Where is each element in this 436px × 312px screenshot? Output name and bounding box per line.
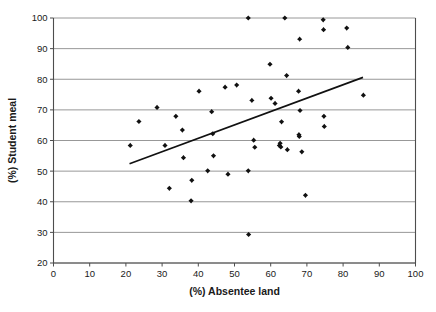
y-tick-label-40: 40 xyxy=(37,196,48,207)
data-point xyxy=(251,138,256,143)
data-point xyxy=(225,172,230,177)
y-tick-label-30: 30 xyxy=(37,227,48,238)
y-tick-label-20: 20 xyxy=(37,257,48,268)
x-axis-ticks-group: 0102030405060708090100 xyxy=(51,263,424,279)
data-point xyxy=(279,119,284,124)
gridlines-group xyxy=(54,18,416,263)
scatter-chart-figure: 2030405060708090100010203040506070809010… xyxy=(0,0,436,312)
x-tick-label-10: 10 xyxy=(84,268,95,279)
data-point xyxy=(268,96,273,101)
data-point xyxy=(173,114,178,119)
data-point xyxy=(246,15,251,20)
data-point xyxy=(285,147,290,152)
y-tick-label-70: 70 xyxy=(37,104,48,115)
x-tick-label-50: 50 xyxy=(229,268,240,279)
data-point xyxy=(246,168,251,173)
x-tick-label-90: 90 xyxy=(374,268,385,279)
data-point xyxy=(234,82,239,87)
data-point xyxy=(222,85,227,90)
trendline xyxy=(130,77,363,163)
data-point xyxy=(321,27,326,32)
x-tick-label-70: 70 xyxy=(302,268,313,279)
y-tick-label-60: 60 xyxy=(37,135,48,146)
data-point xyxy=(272,101,277,106)
data-point xyxy=(181,155,186,160)
data-point xyxy=(189,178,194,183)
y-axis-ticks-group: 2030405060708090100 xyxy=(32,12,54,268)
data-point xyxy=(162,143,167,148)
y-tick-label-100: 100 xyxy=(32,12,48,23)
data-point xyxy=(188,198,193,203)
x-axis-title: (%) Absentee land xyxy=(189,285,280,297)
y-tick-label-50: 50 xyxy=(37,166,48,177)
data-point xyxy=(136,119,141,124)
data-point xyxy=(344,26,349,31)
data-point xyxy=(205,168,210,173)
x-tick-label-60: 60 xyxy=(265,268,276,279)
x-tick-label-80: 80 xyxy=(338,268,349,279)
data-point xyxy=(267,62,272,67)
x-tick-label-0: 0 xyxy=(51,268,56,279)
data-point xyxy=(284,73,289,78)
data-point xyxy=(297,37,302,42)
data-point xyxy=(361,93,366,98)
data-point xyxy=(322,124,327,129)
x-tick-label-30: 30 xyxy=(157,268,168,279)
data-point xyxy=(167,186,172,191)
data-point xyxy=(211,153,216,158)
data-point xyxy=(180,127,185,132)
x-tick-label-100: 100 xyxy=(408,268,424,279)
data-point xyxy=(282,15,287,20)
chart-canvas: 2030405060708090100010203040506070809010… xyxy=(0,0,436,312)
x-tick-label-40: 40 xyxy=(193,268,204,279)
data-point xyxy=(249,98,254,103)
data-point xyxy=(252,145,257,150)
y-tick-label-80: 80 xyxy=(37,74,48,85)
data-point xyxy=(303,193,308,198)
data-point xyxy=(297,108,302,113)
data-point xyxy=(128,143,133,148)
data-point xyxy=(321,114,326,119)
y-axis-title: (%) Student meal xyxy=(6,98,18,183)
data-point xyxy=(299,149,304,154)
data-point xyxy=(154,105,159,110)
data-point xyxy=(296,89,301,94)
data-point xyxy=(345,45,350,50)
data-point xyxy=(196,89,201,94)
y-tick-label-90: 90 xyxy=(37,43,48,54)
x-tick-label-20: 20 xyxy=(121,268,132,279)
